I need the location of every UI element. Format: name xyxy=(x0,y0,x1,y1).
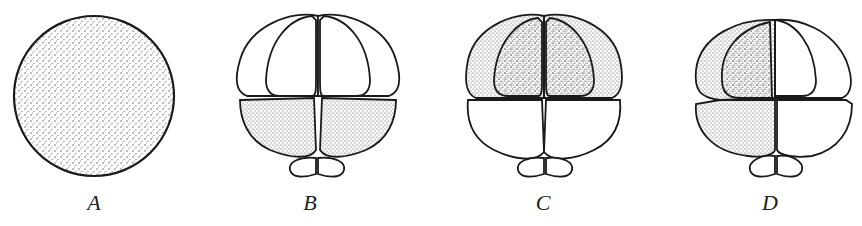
panel-d-embryo xyxy=(696,20,852,177)
label-a: A xyxy=(74,190,114,216)
panel-b-embryo xyxy=(237,15,400,177)
label-c: C xyxy=(523,190,563,216)
label-d: D xyxy=(750,190,790,216)
embryo-diagram xyxy=(0,0,862,226)
panel-c-embryo xyxy=(466,15,622,177)
label-b: B xyxy=(290,190,330,216)
panel-a-egg xyxy=(14,16,174,176)
